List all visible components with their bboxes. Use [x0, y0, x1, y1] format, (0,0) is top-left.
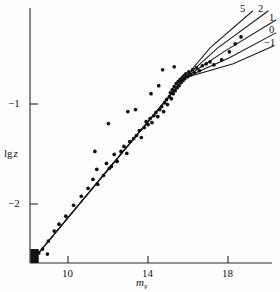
data-point — [95, 168, 99, 172]
data-point — [157, 84, 161, 88]
y-axis-title-lg: lg — [4, 147, 13, 159]
data-point — [169, 97, 173, 101]
data-point — [165, 98, 169, 102]
curve-label-0: 0 — [269, 25, 274, 36]
data-point — [198, 69, 202, 73]
model-curve — [32, 11, 268, 261]
y-axis-title-z: z — [13, 147, 17, 159]
data-point — [41, 247, 45, 251]
data-point — [160, 105, 164, 109]
data-point — [228, 50, 232, 54]
data-point — [31, 255, 35, 259]
data-point — [72, 203, 76, 207]
curve-label-2: 2 — [258, 4, 263, 15]
data-point — [195, 66, 199, 70]
model-curve — [32, 46, 274, 261]
data-point — [161, 68, 165, 72]
data-point — [86, 186, 90, 190]
x-axis-title-m: m — [136, 276, 144, 288]
data-point — [126, 110, 130, 114]
data-point — [148, 117, 152, 121]
data-point — [125, 152, 129, 156]
data-point — [146, 123, 150, 127]
data-point — [162, 110, 166, 114]
x-tick-label-18: 18 — [222, 268, 233, 279]
data-point — [172, 65, 176, 69]
data-point — [119, 150, 123, 154]
data-point — [166, 103, 170, 107]
model-curve — [32, 33, 276, 261]
curve-label-1: 1 — [269, 13, 274, 24]
data-point — [79, 194, 83, 198]
model-curve — [32, 20, 276, 261]
data-point — [138, 129, 142, 133]
data-point — [46, 252, 50, 256]
data-point — [220, 58, 224, 62]
data-point — [139, 136, 143, 140]
data-point — [208, 60, 212, 64]
data-point — [200, 64, 204, 68]
data-point — [107, 122, 111, 126]
model-curves-group — [32, 11, 276, 261]
data-point — [132, 137, 136, 141]
data-point — [239, 35, 243, 39]
data-point — [189, 73, 193, 77]
data-point — [33, 259, 37, 263]
data-point — [93, 150, 97, 154]
data-point — [135, 134, 139, 138]
curve-label-5: 5 — [240, 4, 245, 15]
data-point — [109, 165, 113, 169]
data-point — [134, 108, 138, 112]
scatter-points-group — [31, 35, 243, 263]
data-point — [149, 92, 153, 96]
data-point — [115, 160, 119, 164]
data-point — [204, 62, 208, 66]
data-point — [156, 115, 160, 119]
data-point — [212, 63, 216, 67]
chart-figure: −1 −2 10 14 18 lg z mv 5 2 1 0 −1 — [0, 0, 280, 292]
data-point — [37, 251, 41, 255]
data-point — [233, 42, 237, 46]
data-point — [128, 140, 132, 144]
x-axis-title-subscript: v — [144, 282, 147, 291]
data-point — [52, 229, 56, 233]
data-point — [105, 162, 109, 166]
data-point — [154, 111, 158, 115]
data-point — [64, 214, 68, 218]
y-axis-ticks — [30, 104, 38, 204]
data-point — [193, 71, 197, 75]
data-point — [122, 145, 126, 149]
data-point — [142, 126, 146, 130]
x-axis-title: mv — [136, 277, 147, 291]
y-axis-title: lg z — [4, 148, 18, 159]
data-point — [96, 182, 100, 186]
curve-label-minus1: −1 — [264, 38, 275, 49]
data-point — [112, 153, 116, 157]
data-point — [91, 177, 95, 181]
x-axis-ticks — [68, 256, 228, 263]
plot-area — [0, 0, 280, 292]
data-point — [57, 222, 61, 226]
x-tick-label-10: 10 — [62, 268, 73, 279]
data-point — [150, 121, 154, 125]
data-point — [47, 239, 51, 243]
data-point — [102, 173, 106, 177]
y-tick-label-minus1: −1 — [8, 98, 20, 109]
y-tick-label-minus2: −2 — [8, 198, 20, 209]
